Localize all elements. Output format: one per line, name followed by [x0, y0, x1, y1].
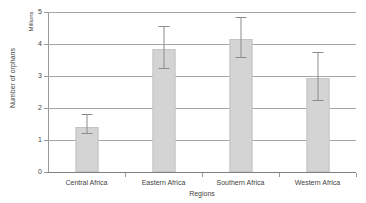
y-tick-label-4: 4: [22, 40, 42, 47]
y-axis-title: Number of orphans: [9, 33, 17, 123]
error-bar-cap-top: [81, 114, 92, 115]
x-tick-label-3: Southern Africa: [202, 179, 279, 187]
error-bar-cap-top: [158, 26, 169, 27]
y-tick-label-1: 1: [22, 136, 42, 143]
error-bar: [312, 52, 323, 101]
error-bar: [158, 26, 169, 69]
error-bar-stem: [240, 17, 241, 59]
x-tick-label-1: Central Africa: [48, 179, 125, 187]
x-tick-mark-3: [279, 173, 280, 177]
y-tick-label-3: 3: [22, 72, 42, 79]
x-tick-label-2: Eastern Africa: [125, 179, 202, 187]
error-bar-stem: [317, 52, 318, 101]
y-tick-mark-5: [44, 12, 48, 13]
bar-group: [48, 12, 125, 172]
error-bar-stem: [163, 26, 164, 69]
error-bar-cap-top: [235, 17, 246, 18]
y-tick-mark-1: [44, 140, 48, 141]
y-tick-label-5: 5: [22, 8, 42, 15]
bar[interactable]: [229, 39, 252, 172]
error-bar: [81, 114, 92, 133]
error-bar-cap-bottom: [235, 57, 246, 58]
y-tick-mark-4: [44, 44, 48, 45]
y-tick-label-2: 2: [22, 104, 42, 111]
error-bar-cap-bottom: [312, 100, 323, 101]
y-tick-mark-2: [44, 108, 48, 109]
error-bar-stem: [86, 114, 87, 133]
bar[interactable]: [75, 127, 98, 172]
x-tick-mark-2: [202, 173, 203, 177]
y-tick-mark-0: [44, 172, 48, 173]
bar-group: [202, 12, 279, 172]
x-tick-label-4: Western Africa: [279, 179, 356, 187]
y-axis-unit-label: Millions: [28, 0, 35, 44]
bar-group: [125, 12, 202, 172]
error-bar: [235, 17, 246, 59]
x-axis-title: Regions: [48, 190, 356, 198]
error-bar-cap-bottom: [81, 133, 92, 134]
error-bar-cap-top: [312, 52, 323, 53]
x-tick-mark-4: [356, 173, 357, 177]
bar-group: [279, 12, 356, 172]
x-tick-mark-1: [125, 173, 126, 177]
error-bar-cap-bottom: [158, 68, 169, 69]
bar-chart: Millions Number of orphans Regions 01234…: [0, 0, 366, 203]
y-tick-label-0: 0: [22, 168, 42, 175]
y-tick-mark-3: [44, 76, 48, 77]
plot-area: [48, 12, 356, 172]
